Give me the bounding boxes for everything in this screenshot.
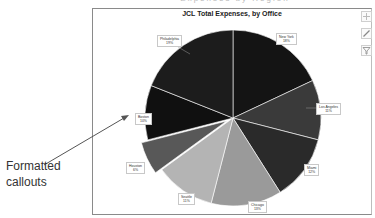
callout-pct: 11% [181,199,192,203]
callout-chicago[interactable]: Chicago 13% [248,201,267,213]
callout-new-york[interactable]: New York 18% [276,33,297,45]
chart-elements-button[interactable] [361,11,372,22]
callout-pct: 13% [251,207,264,211]
pie-slices[interactable] [141,30,321,206]
plus-icon [362,12,371,21]
callout-pct: 6% [129,168,142,172]
callout-philadelphia[interactable]: Philadelphia 19% [157,35,182,47]
callout-seattle[interactable]: Seattle 11% [178,193,195,205]
filter-icon [362,46,371,55]
callout-pct: 10% [138,119,149,123]
callout-pct: 18% [279,39,294,43]
callout-miami[interactable]: Miami 12% [304,164,319,176]
brush-icon [362,29,371,38]
chart-styles-button[interactable] [361,28,372,39]
annotation-line-1: Formatted [6,158,61,174]
annotation-line-2: callouts [6,174,61,190]
chart-filters-button[interactable] [361,45,372,56]
callout-houston[interactable]: Houston 6% [126,162,145,174]
callout-boston[interactable]: Boston 10% [135,113,152,125]
callout-los-angeles[interactable]: Los Angeles 11% [316,103,341,115]
callout-pct: 11% [319,109,338,113]
callout-pct: 19% [160,41,179,45]
annotation-text: Formatted callouts [6,158,61,190]
callout-pct: 12% [307,170,316,174]
